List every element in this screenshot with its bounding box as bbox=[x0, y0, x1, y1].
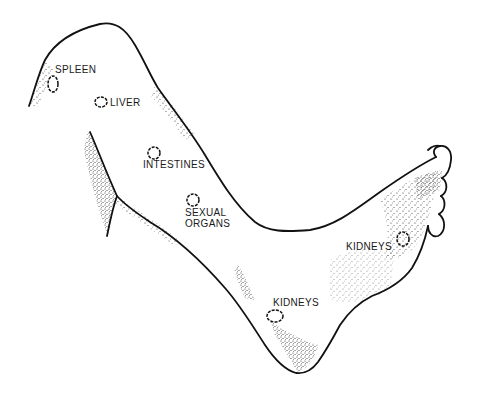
leg-foot-illustration bbox=[0, 0, 480, 406]
label-kidneys-ankle: KIDNEYS bbox=[273, 297, 319, 308]
label-liver: LIVER bbox=[110, 97, 140, 108]
label-intestines: INTESTINES bbox=[143, 159, 205, 170]
shading bbox=[30, 60, 442, 372]
label-sexual-organs: SEXUAL ORGANS bbox=[185, 207, 230, 229]
sexual-organs-point-marker bbox=[187, 194, 199, 206]
intestines-point-marker bbox=[148, 147, 160, 159]
reflexology-diagram: SPLEEN LIVER INTESTINES SEXUAL ORGANS KI… bbox=[0, 0, 480, 406]
liver-point-marker bbox=[95, 97, 107, 107]
spleen-point-marker bbox=[48, 76, 58, 92]
kidneys-ankle-point-marker bbox=[267, 310, 283, 322]
label-kidneys-foot: KIDNEYS bbox=[346, 241, 392, 252]
label-spleen: SPLEEN bbox=[55, 64, 96, 75]
